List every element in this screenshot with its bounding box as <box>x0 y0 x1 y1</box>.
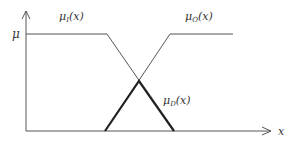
label-mu-d: μD(x) <box>163 94 191 108</box>
x-axis-label: x <box>278 125 285 138</box>
y-axis-label: μ <box>12 27 20 41</box>
curve-mu-i <box>26 34 174 131</box>
label-mu-i: μI(x) <box>59 10 84 24</box>
label-mu-o: μO(x) <box>185 10 213 24</box>
membership-diagram: μ x μI(x) μO(x) μD(x) <box>0 0 296 144</box>
curve-mu-o <box>105 34 233 131</box>
